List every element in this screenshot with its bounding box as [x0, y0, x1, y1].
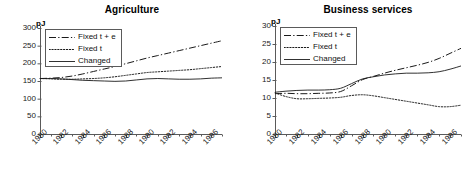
- legend-item: Fixed t + e: [281, 29, 356, 41]
- series-line: [40, 78, 222, 82]
- legend-item: Changed: [281, 53, 356, 65]
- legend-line-swatch: [284, 42, 310, 52]
- y-axis-tick-label: 200: [4, 59, 36, 67]
- legend-item: Fixed t: [281, 41, 356, 53]
- legend-label: Fixed t: [313, 42, 337, 52]
- y-axis-tick-label: 10: [239, 94, 271, 102]
- legend-label: Fixed t + e: [313, 30, 351, 40]
- series-line: [275, 93, 461, 107]
- series-line: [275, 66, 461, 92]
- legend-line-swatch: [284, 30, 310, 40]
- y-axis-tick-label: 5: [239, 112, 271, 120]
- y-axis-tick-label: 250: [4, 42, 36, 50]
- chart-panel-business-services: Business services pJ 302520151050 198019…: [237, 0, 473, 173]
- legend-label: Changed: [313, 54, 345, 64]
- legend-label: Changed: [78, 56, 110, 66]
- y-axis-tick-label: 50: [4, 112, 36, 120]
- legend-item: Fixed t: [46, 43, 121, 55]
- legend-line-swatch: [49, 56, 75, 66]
- y-axis-tick-label: 20: [239, 58, 271, 66]
- chart-title-agriculture: Agriculture: [0, 4, 236, 15]
- y-axis-tick-label: 0: [239, 130, 271, 138]
- series-line: [40, 67, 222, 80]
- y-axis-tick-label: 0: [4, 130, 36, 138]
- legend-label: Fixed t: [78, 44, 102, 54]
- y-axis-tick-label: 25: [239, 40, 271, 48]
- legend-business-services: Fixed t + eFixed tChanged: [280, 27, 357, 65]
- y-axis-tick-label: 150: [4, 77, 36, 85]
- legend-line-swatch: [284, 54, 310, 64]
- figure-root: Agriculture pJ 300250200150100500 198019…: [0, 0, 473, 173]
- legend-item: Changed: [46, 55, 121, 67]
- legend-agriculture: Fixed t + eFixed tChanged: [45, 29, 122, 67]
- y-axis-tick-label: 15: [239, 76, 271, 84]
- y-axis-tick-label: 30: [239, 22, 271, 30]
- legend-line-swatch: [49, 44, 75, 54]
- y-axis-tick-label: 100: [4, 95, 36, 103]
- chart-panel-agriculture: Agriculture pJ 300250200150100500 198019…: [0, 0, 236, 173]
- y-axis-tick-label: 300: [4, 24, 36, 32]
- legend-label: Fixed t + e: [78, 32, 116, 42]
- legend-line-swatch: [49, 32, 75, 42]
- legend-item: Fixed t + e: [46, 31, 121, 43]
- chart-title-business-services: Business services: [237, 4, 473, 15]
